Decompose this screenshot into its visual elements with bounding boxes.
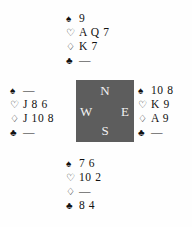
heart-icon: ♡ — [138, 98, 151, 112]
west-diamonds-row: ♢ J 10 8 — [10, 111, 54, 125]
compass-label-north: N — [100, 84, 109, 97]
heart-icon: ♡ — [10, 98, 23, 112]
spade-icon: ♠ — [66, 157, 79, 171]
west-hearts-cards: J 8 6 — [23, 97, 48, 111]
south-diamonds-row: ♢ — — [66, 184, 102, 198]
compass-box: N W E S — [76, 80, 134, 142]
north-spades-cards: 9 — [79, 11, 85, 25]
west-clubs-cards: — — [23, 125, 35, 139]
south-diamonds-cards: — — [79, 184, 91, 198]
club-icon: ♣ — [10, 126, 23, 140]
east-hearts-cards: K 9 — [151, 97, 170, 111]
diamond-icon: ♢ — [10, 112, 23, 126]
west-spades-cards: — — [23, 83, 35, 97]
south-clubs-cards: 8 4 — [79, 198, 95, 212]
east-spades-cards: 10 8 — [151, 83, 174, 97]
compass-label-east: E — [121, 105, 129, 118]
south-spades-cards: 7 6 — [79, 156, 95, 170]
compass-label-west: W — [80, 105, 92, 118]
south-clubs-row: ♣ 8 4 — [66, 198, 102, 212]
diamond-icon: ♢ — [138, 112, 151, 126]
south-hearts-cards: 10 2 — [79, 170, 102, 184]
west-clubs-row: ♣ — — [10, 125, 54, 139]
diamond-icon: ♢ — [66, 40, 79, 54]
east-clubs-row: ♣ — — [138, 125, 174, 139]
north-hearts-cards: A Q 7 — [79, 25, 109, 39]
south-spades-row: ♠ 7 6 — [66, 156, 102, 170]
compass-label-south: S — [101, 124, 108, 137]
east-diamonds-row: ♢ A 9 — [138, 111, 174, 125]
east-hearts-row: ♡ K 9 — [138, 97, 174, 111]
diamond-icon: ♢ — [66, 185, 79, 199]
club-icon: ♣ — [138, 126, 151, 140]
north-clubs-row: ♣ — — [66, 53, 109, 67]
east-hand: ♠ 10 8 ♡ K 9 ♢ A 9 ♣ — — [138, 83, 174, 139]
club-icon: ♣ — [66, 54, 79, 68]
north-hand: ♠ 9 ♡ A Q 7 ♢ K 7 ♣ — — [66, 11, 109, 67]
heart-icon: ♡ — [66, 171, 79, 185]
north-diamonds-cards: K 7 — [79, 39, 98, 53]
east-diamonds-cards: A 9 — [151, 111, 169, 125]
spade-icon: ♠ — [10, 84, 23, 98]
club-icon: ♣ — [66, 199, 79, 213]
spade-icon: ♠ — [66, 12, 79, 26]
heart-icon: ♡ — [66, 26, 79, 40]
spade-icon: ♠ — [138, 84, 151, 98]
west-hearts-row: ♡ J 8 6 — [10, 97, 54, 111]
south-hearts-row: ♡ 10 2 — [66, 170, 102, 184]
north-hearts-row: ♡ A Q 7 — [66, 25, 109, 39]
west-diamonds-cards: J 10 8 — [23, 111, 54, 125]
north-diamonds-row: ♢ K 7 — [66, 39, 109, 53]
north-clubs-cards: — — [79, 53, 91, 67]
east-spades-row: ♠ 10 8 — [138, 83, 174, 97]
west-hand: ♠ — ♡ J 8 6 ♢ J 10 8 ♣ — — [10, 83, 54, 139]
west-spades-row: ♠ — — [10, 83, 54, 97]
bridge-hand-diagram: ♠ 9 ♡ A Q 7 ♢ K 7 ♣ — ♠ — ♡ J 8 6 ♢ J 10… — [0, 0, 192, 227]
east-clubs-cards: — — [151, 125, 163, 139]
north-spades-row: ♠ 9 — [66, 11, 109, 25]
south-hand: ♠ 7 6 ♡ 10 2 ♢ — ♣ 8 4 — [66, 156, 102, 212]
